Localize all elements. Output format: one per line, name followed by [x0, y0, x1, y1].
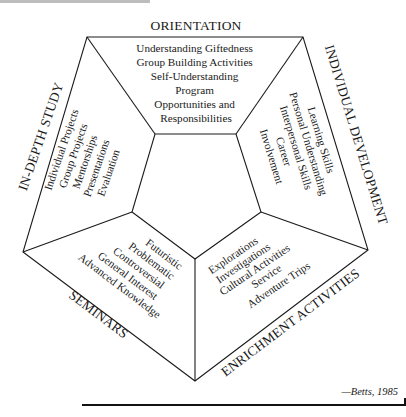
item: Responsibilities	[160, 112, 231, 124]
section-items-in-depth-study: Individual Projects Group Projects Mento…	[42, 105, 131, 209]
bottom-rule	[82, 398, 405, 405]
section-individual-development: INDIVIDUAL DEVELOPMENT Learning Skills P…	[250, 43, 391, 227]
citation: —Betts, 1985	[340, 386, 398, 397]
diagram-canvas: ORIENTATION Understanding Giftedness Gro…	[0, 0, 406, 417]
cropped-text-remnant	[0, 0, 150, 3]
section-items-individual-development: Learning Skills Personal Understanding I…	[250, 87, 343, 211]
section-orientation: ORIENTATION Understanding Giftedness Gro…	[136, 18, 255, 124]
section-in-depth-study: IN-DEPTH STUDY Individual Projects Group…	[15, 80, 131, 208]
section-items-enrichment-activities: Explorations Investigations Cultural Act…	[204, 218, 313, 319]
item: Opportunities and	[154, 98, 235, 110]
item: Group Building Activities	[136, 56, 252, 68]
section-items-orientation: Understanding Giftedness Group Building …	[136, 42, 255, 124]
item: Program	[175, 84, 214, 96]
section-title-orientation: ORIENTATION	[150, 18, 241, 33]
item: Self-Understanding	[151, 70, 239, 82]
section-title-individual-development: INDIVIDUAL DEVELOPMENT	[322, 43, 391, 227]
item: Understanding Giftedness	[136, 42, 253, 54]
spoke-right	[261, 212, 368, 250]
section-title-seminars: SEMINARS	[66, 287, 131, 341]
section-enrichment-activities: ENRICHMENT ACTIVITIES Explorations Inves…	[204, 218, 363, 380]
spoke-left	[23, 212, 132, 252]
